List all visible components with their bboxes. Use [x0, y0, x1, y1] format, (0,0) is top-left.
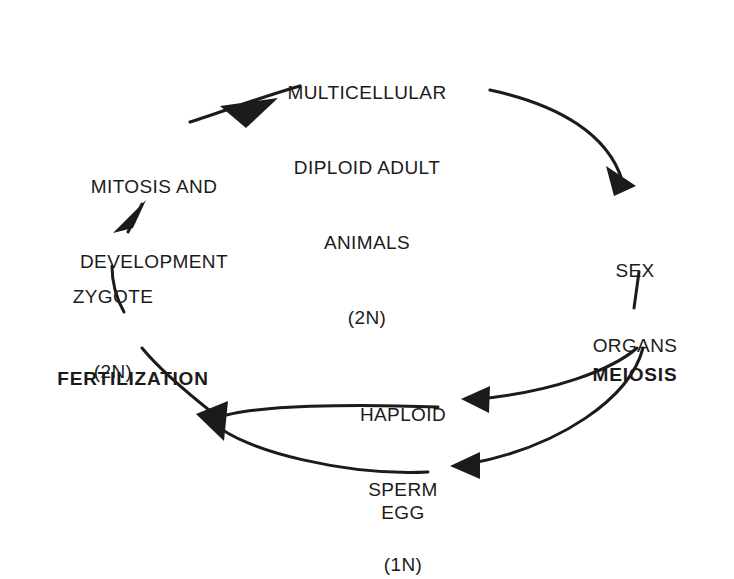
- adult-line-4-ploidy: (2N): [252, 305, 482, 330]
- adult-line-1: MULTICELLULAR: [252, 80, 482, 105]
- zygote-line-2-ploidy: (2N): [28, 359, 198, 384]
- mitosis-line-1: MITOSIS AND: [48, 174, 260, 199]
- node-label-adult: MULTICELLULAR DIPLOID ADULT ANIMALS (2N): [252, 30, 482, 380]
- mitosis-line-2: DEVELOPMENT: [48, 249, 260, 274]
- adult-line-2: DIPLOID ADULT: [252, 155, 482, 180]
- node-label-mitosis: MITOSIS AND DEVELOPMENT: [48, 124, 260, 324]
- edge-path-adult-to-sex-organs: [490, 90, 622, 180]
- meiosis-line-1: MEIOSIS: [560, 362, 710, 387]
- egg-line-1: EGG: [318, 500, 488, 525]
- arrow-adult-to-sex-organs: [490, 90, 636, 196]
- node-label-egg: EGG: [318, 450, 488, 575]
- node-label-meiosis: MEIOSIS: [560, 312, 710, 437]
- arrowhead-sex-organs: [606, 166, 636, 196]
- sperm-line-1: HAPLOID: [318, 402, 488, 427]
- adult-line-3: ANIMALS: [252, 230, 482, 255]
- sex-organs-line-1: SEX: [560, 258, 710, 283]
